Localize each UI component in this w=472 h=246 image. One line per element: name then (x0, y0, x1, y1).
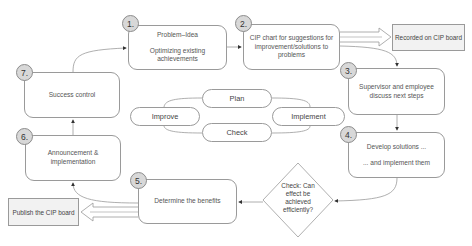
step-2-box: CIP chart for suggestions for improvemen… (243, 24, 340, 70)
step-2-text: CIP chart for suggestions for improvemen… (248, 34, 336, 60)
step-1-box: Problem–Idea Optimizing existing achieve… (128, 25, 227, 70)
step-3-number-badge: 3. (340, 62, 357, 79)
recorded-on-cip-board-box: Recorded on CIP board (392, 24, 465, 51)
step-1-number-badge: 1. (122, 15, 139, 32)
step-5-box: Determine the benefits (138, 179, 237, 224)
step-4-box: Develop solutions ... ... and implement … (348, 132, 445, 178)
step-7-number-badge: 7. (16, 64, 33, 81)
step-3-text: Supervisor and employee discuss next ste… (357, 83, 437, 100)
step-7-box: Success control (24, 72, 120, 118)
step-2-number-badge: 2. (235, 15, 252, 32)
step-5-text: Determine the benefits (154, 197, 220, 206)
step-7-text: Success control (49, 91, 96, 100)
step-4-line-2: ... and implement them (363, 159, 430, 168)
step-4-number-badge: 4. (340, 126, 357, 143)
step-6-text: Announcement & implementation (43, 149, 103, 166)
step-1-title: Problem–Idea (157, 31, 198, 40)
step-3-box: Supervisor and employee discuss next ste… (348, 68, 445, 115)
publish-cip-board-box: Publish the CIP board (8, 198, 79, 226)
step-6-box: Announcement & implementation (25, 135, 121, 181)
step-4-line-1: Develop solutions ... (367, 143, 426, 152)
cycle-plan: Plan (202, 89, 272, 108)
cycle-implement: Implement (272, 107, 345, 126)
decision-label: Check: Can effect be achieved efficientl… (278, 182, 318, 214)
step-6-number-badge: 6. (16, 128, 33, 145)
step-5-number-badge: 5. (130, 172, 147, 189)
cycle-improve: Improve (130, 107, 200, 126)
cycle-check: Check (202, 123, 272, 142)
step-1-subtitle: Optimizing existing achievements (143, 47, 213, 64)
